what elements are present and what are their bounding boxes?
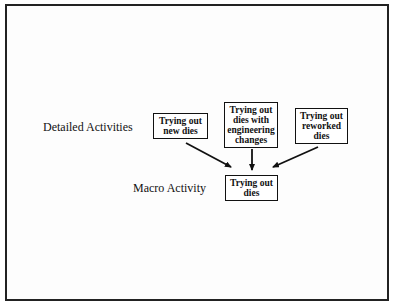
arrow-new-dies-to-macro — [186, 143, 231, 167]
arrow-reworked-to-macro — [273, 147, 318, 167]
arrows-layer — [0, 0, 395, 307]
